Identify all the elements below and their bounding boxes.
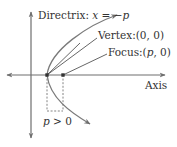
p-condition-label: p > 0 <box>43 115 72 127</box>
vertex-label: Vertex:(0, 0) <box>97 29 164 41</box>
focus-label: Focus:(p, 0) <box>108 46 171 58</box>
focus-leader-line <box>63 54 107 75</box>
vertex-point <box>45 73 48 76</box>
p-distance-bracket <box>47 75 63 111</box>
parabola-diagram: Directrix: x = −p Vertex:(0, 0) Focus:(p… <box>0 0 177 147</box>
axis-label: Axis <box>144 79 167 91</box>
directrix-label: Directrix: x = −p <box>38 9 130 21</box>
focus-point <box>61 73 64 76</box>
